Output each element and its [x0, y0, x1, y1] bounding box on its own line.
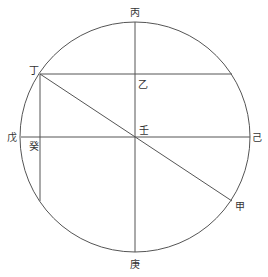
- label-ren: 壬: [139, 125, 149, 136]
- geometry-diagram: 丙 丁 乙 戊 癸 壬 己 甲 庚: [0, 0, 268, 277]
- label-ding: 丁: [29, 65, 39, 76]
- label-geng: 庚: [130, 258, 140, 270]
- label-gui: 癸: [29, 140, 39, 152]
- label-wu: 戊: [7, 132, 17, 143]
- label-ji: 己: [252, 132, 262, 143]
- label-yi: 乙: [138, 79, 148, 90]
- label-bing: 丙: [130, 7, 140, 18]
- label-jia: 甲: [235, 201, 245, 212]
